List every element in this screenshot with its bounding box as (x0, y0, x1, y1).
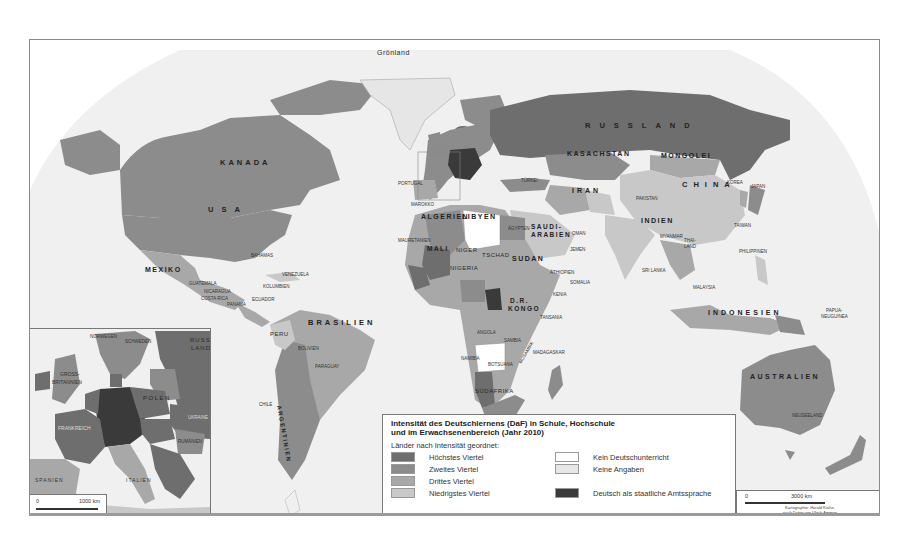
label-korea: KOREA (727, 180, 743, 185)
label-suedafrika: SÜDAFRIKA (475, 388, 514, 394)
swatch-niedrigstes (391, 488, 415, 498)
label-iran: IRAN (572, 187, 601, 194)
legend-label-drittes: Drittes Viertel (429, 477, 474, 486)
legend-title-line2: und im Erwachsenenbereich (Jahr 2010) (391, 428, 731, 437)
label-panama: PANAMA (227, 302, 246, 307)
label-kanada: KANADA (220, 158, 271, 167)
label-japan: JAPAN (751, 184, 765, 189)
europe-inset: NORWEGEN SCHWEDEN RUSS- LAND GROSS- BRIT… (30, 328, 211, 515)
label-taiwan: TAIWAN (734, 223, 751, 228)
label-somalia: SOMALIA (570, 280, 590, 285)
legend-label-niedrigstes: Niedrigstes Viertel (429, 489, 490, 498)
label-papua2: NEUGUINEA (821, 314, 848, 319)
label-srilanka: SRI LANKA (642, 268, 666, 273)
label-nigeria: NIGERIA (450, 265, 478, 271)
inset-label-italien: ITALIEN (126, 477, 152, 483)
label-neuseeland: NEUSEELAND (792, 413, 823, 418)
legend-label-zweites: Zweites Viertel (429, 465, 478, 474)
swatch-zweites (391, 464, 415, 474)
label-saudi2: ARABIEN (531, 231, 571, 238)
label-kasachstan: KASACHSTAN (567, 150, 630, 157)
legend-item-hoechstes: Höchstes Viertel (391, 452, 483, 462)
label-paraguay: PARAGUAY (315, 364, 339, 369)
label-portugal: PORTUGAL (398, 181, 423, 186)
legend-title: Intensität des Deutschlernens (DaF) in S… (391, 419, 731, 437)
label-chile: CHILE (259, 402, 272, 407)
label-guatemala: GUATEMALA (189, 281, 216, 286)
inset-label-russland2: LAND (191, 345, 211, 351)
label-jemen: JEMEN (570, 247, 585, 252)
main-scale-bar: 0 3000 km Kartographie: Harald Krähe, na… (736, 490, 880, 515)
swatch-amtssprache (555, 488, 579, 498)
label-tschad: TSCHAD (482, 252, 510, 258)
label-thailand1: THAI- (684, 238, 696, 243)
inset-scale-line (36, 508, 98, 510)
label-peru: PERU (270, 331, 289, 337)
label-sudan: SUDAN (512, 255, 544, 262)
label-saudi1: SAUDI- (531, 223, 562, 230)
inset-label-russland1: RUSS- (190, 337, 211, 343)
inset-label-polen: POLEN (143, 395, 171, 401)
legend-item-amtssprache: Deutsch als staatliche Amtssprache (555, 488, 711, 498)
label-pakistan: PAKISTAN (636, 196, 658, 201)
inset-label-gross1: GROSS- (60, 371, 80, 377)
label-myanmar: MYANMAR (660, 234, 683, 239)
swatch-keine-angaben (555, 464, 579, 474)
label-philippinen: PHILIPPINEN (739, 249, 767, 254)
label-venezuela: VENEZUELA (282, 272, 309, 277)
label-niger: NIGER (456, 247, 478, 253)
legend-item-niedrigstes: Niedrigstes Viertel (391, 488, 490, 498)
label-papua1: PAPUA- (826, 308, 842, 313)
legend-subtitle: Länder nach Intensität geordnet: (391, 441, 499, 450)
inset-label-schweden: SCHWEDEN (125, 339, 151, 344)
label-kenia: KENIA (553, 292, 567, 297)
label-mali: MALI (427, 245, 449, 252)
swatch-kein (555, 452, 579, 462)
label-indien: INDIEN (641, 217, 674, 224)
label-tansania: TANSANIA (540, 315, 562, 320)
label-australien: AUSTRALIEN (750, 373, 820, 380)
label-ecuador: ECUADOR (252, 297, 275, 302)
label-usa: USA (208, 205, 248, 214)
label-namibia: NAMIBIA (461, 356, 480, 361)
inset-scale-bar: 0 1000 km (30, 494, 107, 515)
label-mexiko: MEXIKO (145, 266, 182, 273)
main-scale-zero: 0 (745, 493, 748, 499)
label-oman: OMAN (572, 231, 586, 236)
label-indonesien: INDONESIEN (708, 309, 782, 316)
inset-label-rumaenien: RUMÄNIEN (178, 439, 202, 444)
legend-label-kein: Kein Deutschunterricht (593, 453, 669, 462)
legend-label-keine-angaben: Keine Angaben (593, 465, 644, 474)
label-marokko: MAROKKO (411, 202, 434, 207)
label-nicaragua: NICARAGUA (204, 289, 231, 294)
europe-inset-map (30, 329, 210, 515)
label-bolivien: BOLIVIEN (298, 346, 319, 351)
inset-scale-zero: 0 (36, 498, 39, 504)
inset-label-frankreich: FRANKREICH (58, 425, 91, 431)
legend-item-keine-angaben: Keine Angaben (555, 464, 644, 474)
label-mongolei: MONGOLEI (661, 152, 711, 159)
legend-label-amtssprache: Deutsch als staatliche Amtssprache (593, 489, 711, 498)
legend: Intensität des Deutschlernens (DaF) in S… (382, 414, 736, 515)
label-costarica: COSTA RICA (201, 296, 228, 301)
label-sambia: SAMBIA (504, 338, 521, 343)
inset-label-spanien: SPANIEN (35, 477, 64, 483)
label-aethiopien: ÄTHIOPIEN (550, 270, 574, 275)
label-malaysia: MALAYSIA (693, 285, 715, 290)
inset-label-gross2: BRITANNIEN (52, 379, 82, 385)
legend-label-hoechstes: Höchstes Viertel (429, 453, 483, 462)
label-kongo: KONGO (508, 305, 540, 312)
legend-title-line1: Intensität des Deutschlernens (DaF) in S… (391, 419, 731, 428)
label-tuerkei: TÜRKEI (521, 178, 538, 183)
main-scale-line (745, 502, 825, 504)
map-frame: Grönland KANADA USA MEXIKO RUSSLAND KASA… (29, 39, 880, 515)
label-angola: ANGOLA (477, 330, 496, 335)
label-brasilien: BRASILIEN (308, 318, 375, 327)
swatch-hoechstes (391, 452, 415, 462)
swatch-drittes (391, 476, 415, 486)
inset-scale-km: 1000 km (79, 498, 100, 504)
label-aegypten: ÄGYPTEN (508, 226, 530, 231)
label-botsuana: BOTSUANA (488, 362, 513, 367)
label-thailand2: LAND (684, 244, 696, 249)
label-groenland: Grönland (377, 49, 410, 56)
